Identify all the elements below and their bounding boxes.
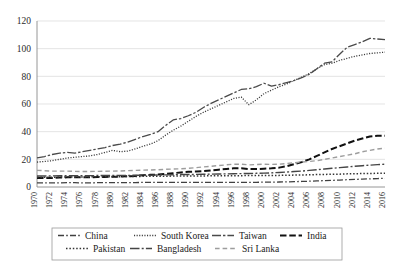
x-tick-label: 2008 [317,192,326,208]
y-tick-label: 20 [22,155,32,165]
x-tick-label: 2010 [333,192,342,208]
x-tick-label: 1972 [45,192,54,208]
chart-background [0,0,395,267]
x-tick-label: 1976 [75,192,84,208]
x-tick-label: 1998 [242,192,251,208]
x-tick-label: 2002 [272,192,281,208]
y-tick-label: 80 [22,72,32,82]
legend-label-taiwan: Taiwan [239,231,267,241]
x-tick-label: 1986 [151,192,160,208]
y-tick-label: 40 [22,127,32,137]
x-tick-label: 2016 [378,192,387,208]
x-tick-label: 1970 [30,192,39,208]
x-tick-label: 1994 [212,192,221,208]
legend-label-pakistan: Pakistan [93,244,125,254]
line-chart: 020406080100120 197019721974197619781980… [0,0,395,267]
x-tick-label: 1974 [60,192,69,208]
legend-label-china: China [85,231,108,241]
y-tick-label: 60 [22,99,32,109]
x-tick-label: 2014 [363,192,372,208]
x-tick-label: 2006 [302,192,311,208]
y-tick-label: 0 [26,182,31,192]
legend-label-south-korea: South Korea [161,231,210,241]
x-tick-label: 2004 [287,192,296,208]
legend-label-india: India [307,231,327,241]
x-tick-label: 1984 [136,192,145,208]
x-tick-label: 2012 [348,192,357,208]
x-tick-label: 1992 [196,192,205,208]
x-tick-label: 2000 [257,192,266,208]
x-tick-label: 1982 [121,192,130,208]
x-tick-label: 1990 [181,192,190,208]
x-tick-label: 1996 [227,192,236,208]
y-tick-label: 100 [17,44,32,54]
legend-label-sri-lanka: Sri Lanka [242,244,280,254]
y-tick-label: 120 [17,16,32,26]
legend-label-bangladesh: Bangladesh [157,244,202,254]
x-tick-label: 1978 [91,192,100,208]
x-tick-label: 1980 [106,192,115,208]
chart-canvas: 020406080100120 197019721974197619781980… [0,0,395,267]
x-tick-label: 1988 [166,192,175,208]
